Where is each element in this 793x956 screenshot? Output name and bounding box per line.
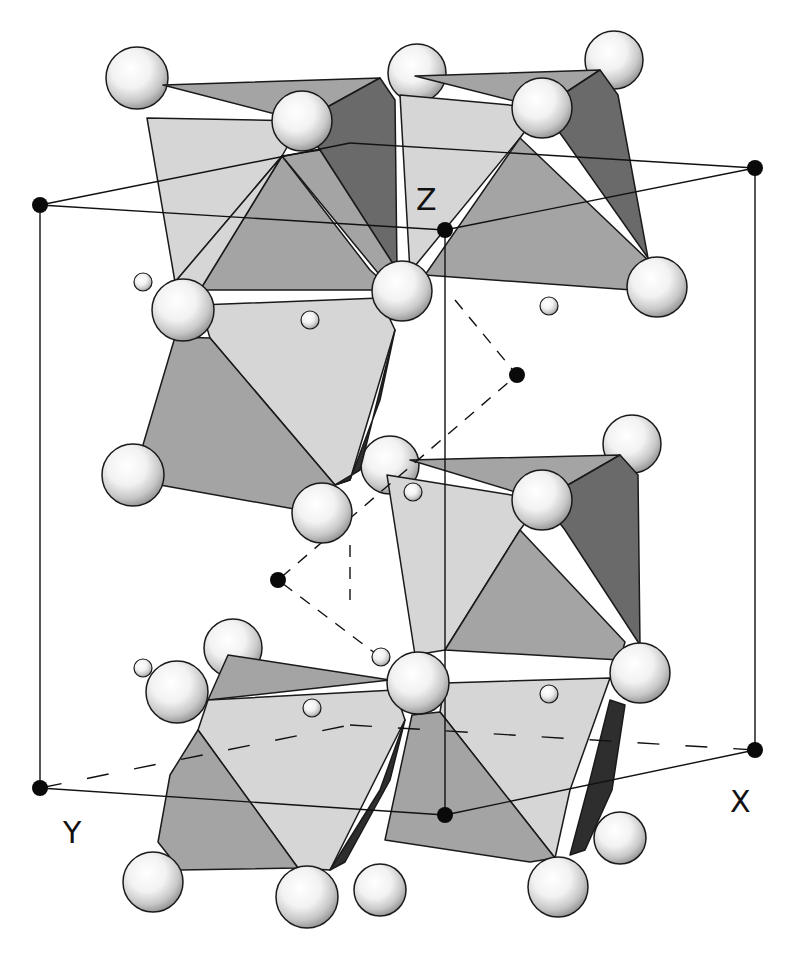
- axis-label-z: Z: [416, 185, 437, 215]
- polyhedron-top-left: [147, 78, 397, 290]
- polyhedron-middle-right: [387, 455, 640, 660]
- crystal-structure-diagram: [0, 0, 793, 956]
- axis-label-y: Y: [63, 818, 81, 848]
- axis-label-x: X: [730, 787, 751, 817]
